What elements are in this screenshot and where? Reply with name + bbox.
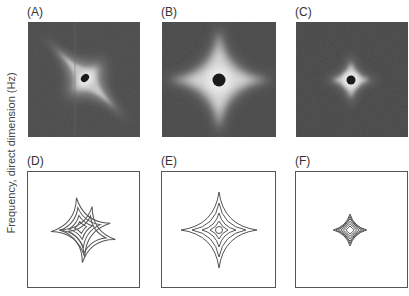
panel-f-contour-plot bbox=[295, 171, 409, 289]
panel-a-intensity-map bbox=[28, 22, 140, 137]
panel-label-b: (B) bbox=[161, 5, 177, 19]
panel-label-d: (D) bbox=[27, 154, 44, 168]
panel-label-a: (A) bbox=[27, 5, 43, 19]
panel-c-intensity-map bbox=[296, 22, 408, 137]
y-axis-label: Frequency, direct dimension (Hz) bbox=[5, 58, 19, 248]
panel-e-frame bbox=[162, 172, 276, 288]
panel-e-contour-plot bbox=[161, 171, 277, 289]
panel-d-contour-plot bbox=[27, 171, 141, 289]
panel-b-intensity-map bbox=[162, 22, 276, 137]
panel-c-center bbox=[347, 76, 356, 85]
panel-label-e: (E) bbox=[161, 154, 177, 168]
panel-label-f: (F) bbox=[295, 154, 310, 168]
panel-label-c: (C) bbox=[295, 5, 312, 19]
panel-b-center bbox=[213, 74, 226, 87]
panel-f-frame bbox=[296, 172, 408, 288]
